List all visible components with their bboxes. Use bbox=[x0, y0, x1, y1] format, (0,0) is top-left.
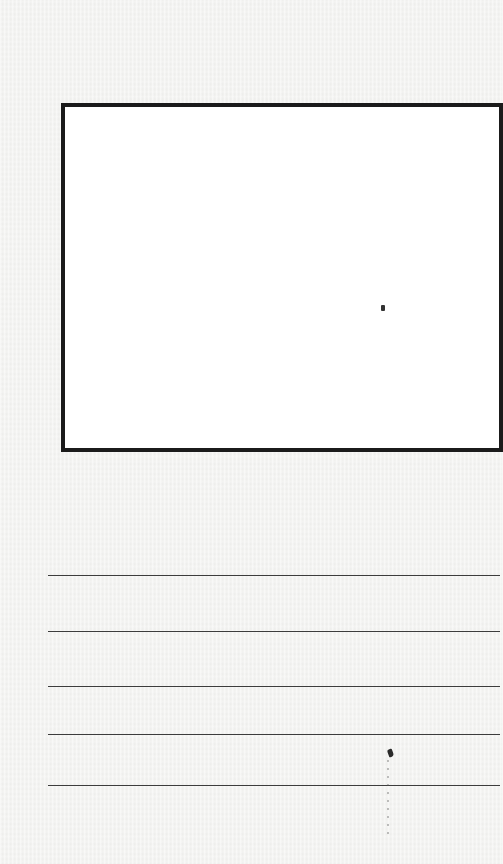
writing-line-1 bbox=[48, 575, 500, 576]
writing-line-3 bbox=[48, 686, 500, 687]
drawing-box bbox=[61, 103, 503, 452]
writing-line-4 bbox=[48, 734, 500, 735]
writing-line-2 bbox=[48, 631, 500, 632]
ink-blot bbox=[387, 748, 394, 757]
stray-mark bbox=[381, 305, 385, 311]
writing-line-5 bbox=[48, 785, 500, 786]
ink-trail bbox=[387, 760, 389, 840]
